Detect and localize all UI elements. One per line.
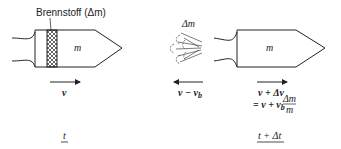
ejected-mass-label: Δm xyxy=(181,18,195,29)
fuel-block xyxy=(47,30,57,67)
velocity-formula: = v + vb xyxy=(253,99,285,112)
fraction-numerator: Δm xyxy=(282,93,296,104)
time-label-left: t xyxy=(63,130,66,141)
velocity-label-right: v + Δv xyxy=(258,87,284,98)
rocket-before: Brennstoff (Δm) m xyxy=(12,7,122,67)
time-label-right: t + Δt xyxy=(258,130,281,141)
fuel-label: Brennstoff (Δm) xyxy=(36,7,106,18)
rocket-momentum-diagram: Brennstoff (Δm) m v t Δm m v − vb v + Δv… xyxy=(0,0,341,149)
rocket-after: m xyxy=(214,30,325,67)
nozzle-right xyxy=(214,32,237,67)
mass-label-left: m xyxy=(74,42,81,53)
exhaust-mass: Δm xyxy=(170,18,202,64)
fuel-leader-line xyxy=(50,18,51,30)
fraction-denominator: m xyxy=(286,104,293,115)
mass-label-right: m xyxy=(266,42,273,53)
exhaust-velocity-label: v − vb xyxy=(178,87,202,100)
nozzle-left xyxy=(12,32,35,67)
velocity-label-left: v xyxy=(62,87,67,98)
rocket-body-right xyxy=(237,30,325,67)
